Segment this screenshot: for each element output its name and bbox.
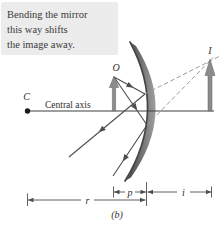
p-arrow-left <box>114 190 120 194</box>
r-arrow-left <box>28 198 34 202</box>
center-of-curvature-label: C <box>23 91 30 102</box>
incident-ray-1-arrowhead <box>126 82 135 90</box>
object-distance-label: p <box>127 187 133 198</box>
i-arrow-left <box>148 190 154 194</box>
subfigure-label: (b) <box>111 209 123 221</box>
central-axis-label: Central axis <box>45 100 91 110</box>
virtual-ray-lower <box>147 58 213 126</box>
reflected-ray-2-arrowhead <box>120 154 129 163</box>
p-arrow-right <box>141 190 147 194</box>
i-arrow-right <box>206 190 212 194</box>
figure-concave-mirror: Bending the mirror this way shifts the i… <box>0 0 224 230</box>
r-arrow-right <box>140 198 146 202</box>
image-label: I <box>207 45 212 56</box>
image-distance-label: i <box>182 187 185 198</box>
image-arrow <box>205 59 215 111</box>
object-label: O <box>112 62 119 73</box>
mirror-diagram: C Central axis O I <box>0 0 224 230</box>
center-of-curvature-dot <box>25 108 30 113</box>
radius-label: r <box>86 195 90 206</box>
